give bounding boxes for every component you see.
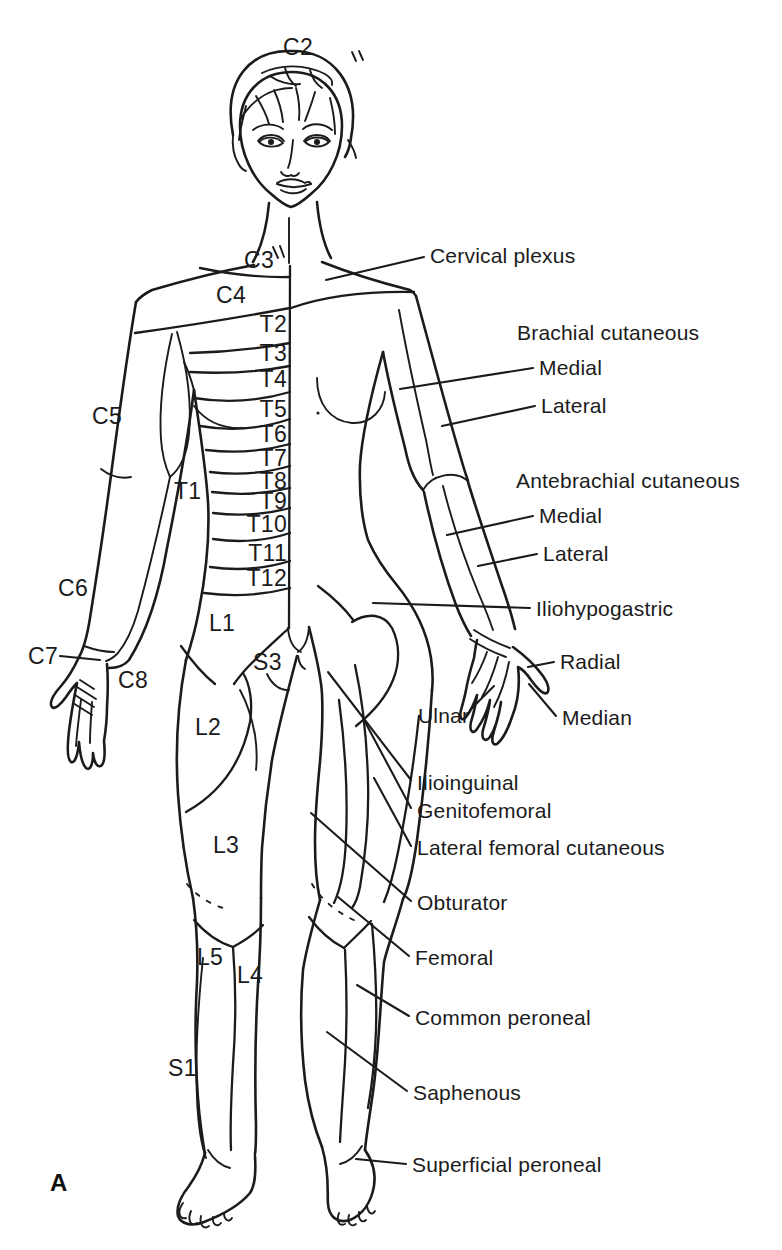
leader-brachial-lateral [442, 406, 535, 426]
label-l4: L4 [237, 962, 263, 988]
label-c5: C5 [92, 403, 122, 429]
label-femoral: Femoral [415, 946, 493, 969]
label-superficial-peroneal: Superficial peroneal [412, 1153, 602, 1176]
label-t10: T10 [246, 511, 287, 537]
label-t2: T2 [260, 311, 287, 337]
label-common-peroneal: Common peroneal [415, 1006, 591, 1029]
right-leg [301, 627, 432, 1150]
label-antebrachial-lateral: Lateral [543, 542, 609, 565]
label-l3: L3 [213, 832, 239, 858]
label-genitofemoral: Genitofemoral [417, 799, 552, 822]
label-l5: L5 [197, 944, 223, 970]
leader-saphenous [327, 1032, 407, 1091]
label-cervical-plexus: Cervical plexus [430, 244, 575, 267]
label-c8: C8 [118, 667, 148, 693]
label-brachial-medial: Medial [539, 356, 602, 379]
label-c3: C3 [244, 247, 274, 273]
label-t4: T4 [260, 366, 287, 392]
leader-antebrachial-lateral [478, 554, 537, 566]
label-antebrachial-medial: Medial [539, 504, 602, 527]
label-antebrachial-cutaneous: Antebrachial cutaneous [516, 469, 740, 492]
label-t1: T1 [174, 478, 201, 504]
label-s3: S3 [253, 649, 282, 675]
nerve-labels: Cervical plexus Brachial cutaneous Media… [412, 244, 740, 1176]
dermatome-labels: C2 C3 C4 C5 C6 C7 C8 T1 T2 T3 T4 T5 T6 T… [28, 34, 313, 1081]
label-obturator: Obturator [417, 891, 508, 914]
label-c2: C2 [283, 34, 313, 60]
label-t12: T12 [246, 565, 287, 591]
dermatome-diagram: C2 C3 C4 C5 C6 C7 C8 T1 T2 T3 T4 T5 T6 T… [0, 0, 782, 1250]
label-t6: T6 [260, 421, 287, 447]
panel-letter: A [50, 1169, 67, 1196]
label-t11: T11 [248, 540, 287, 566]
right-arm [383, 296, 515, 657]
label-c7: C7 [28, 643, 58, 669]
dermatome-figure-page: C2 C3 C4 C5 C6 C7 C8 T1 T2 T3 T4 T5 T6 T… [0, 0, 782, 1250]
label-t5: T5 [260, 396, 287, 422]
neck-and-shoulders [136, 202, 416, 302]
label-brachial-cutaneous: Brachial cutaneous [517, 321, 699, 344]
label-c6: C6 [58, 575, 88, 601]
label-iliohypogastric: Iliohypogastric [536, 597, 673, 620]
label-lateral-femoral-cutaneous: Lateral femoral cutaneous [417, 836, 665, 859]
leader-median [529, 684, 556, 716]
right-foot [322, 1146, 375, 1225]
label-median: Median [562, 706, 632, 729]
label-l2: L2 [195, 714, 221, 740]
label-ilioinguinal: Ilioinguinal [417, 771, 519, 794]
label-s1: S1 [168, 1055, 197, 1081]
label-c4: C4 [216, 282, 246, 308]
left-foot [178, 1150, 256, 1227]
head [231, 51, 363, 207]
label-radial: Radial [560, 650, 621, 673]
leader-superficial-peroneal [356, 1159, 406, 1164]
label-saphenous: Saphenous [413, 1081, 521, 1104]
leader-brachial-medial [400, 368, 533, 389]
label-brachial-lateral: Lateral [541, 394, 607, 417]
leader-antebrachial-medial [447, 516, 533, 535]
left-hand [51, 657, 108, 769]
leader-ilioinguinal [328, 672, 411, 780]
leader-genitofemoral [364, 720, 411, 808]
label-ulnar: Ulnar [418, 704, 469, 727]
leader-iliohypogastric [373, 603, 530, 608]
label-t3: T3 [260, 340, 287, 366]
label-l1: L1 [209, 610, 235, 636]
